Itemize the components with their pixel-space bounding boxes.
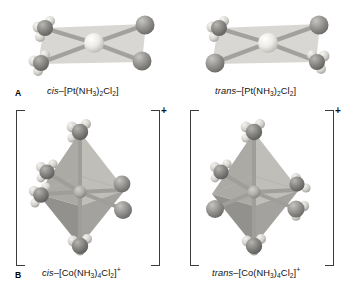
caption-sub-3: 2: [290, 272, 294, 279]
caption-trans-platin: trans–[Pt(NH3)2Cl2]: [215, 86, 296, 96]
panel-a: A cis–[Pt(NH3)2Cl2] trans–[Pt(NH3)2Cl2]: [0, 0, 353, 104]
caption-cl: Cl: [281, 86, 290, 96]
caption-formula-close: ]: [293, 86, 296, 96]
caption-formula-open: [Co(NH: [59, 268, 91, 278]
caption-prefix: cis: [42, 268, 54, 278]
panel-letter-b: B: [15, 270, 21, 280]
caption-sub-1: 3: [270, 90, 274, 97]
caption-formula-open: [Pt(NH: [64, 86, 93, 96]
caption-sub-3: 2: [112, 90, 116, 97]
structure-trans-platin: [188, 6, 348, 78]
panel-b: +: [0, 104, 353, 293]
caption-formula-open: [Pt(NH: [241, 86, 270, 96]
caption-formula-close: ]: [116, 86, 119, 96]
panel-letter-a: A: [15, 88, 21, 98]
structure-cis-cobalt: [22, 110, 150, 266]
caption-cl: Cl: [101, 268, 110, 278]
caption-charge: +: [117, 266, 121, 273]
charge-trans-cobalt: +: [335, 106, 341, 116]
caption-formula-open: [Co(NH: [238, 268, 270, 278]
caption-cis-cobalt: cis–[Co(NH3)4Cl2]+: [42, 268, 121, 278]
caption-sub-1: 3: [270, 272, 274, 279]
caption-sub-3: 2: [110, 272, 114, 279]
caption-sub-2: 4: [98, 272, 102, 279]
caption-sub-1: 3: [91, 272, 95, 279]
caption-cl: Cl: [281, 268, 290, 278]
caption-sub-2: 2: [99, 90, 103, 97]
caption-prefix: cis: [47, 86, 59, 96]
bracket-right-cis-cobalt: [149, 110, 160, 266]
structure-cis-platin: [14, 6, 174, 78]
caption-prefix: trans: [215, 86, 236, 96]
structure-trans-cobalt: [196, 110, 324, 266]
caption-charge: +: [296, 266, 300, 273]
caption-cis-platin: cis–[Pt(NH3)2Cl2]: [47, 86, 119, 96]
charge-cis-cobalt: +: [161, 106, 167, 116]
caption-prefix: trans: [212, 268, 233, 278]
caption-trans-cobalt: trans–[Co(NH3)4Cl2]+: [212, 268, 300, 278]
caption-sub-2: 4: [277, 272, 281, 279]
caption-cl: Cl: [103, 86, 112, 96]
bracket-right-trans-cobalt: [323, 110, 334, 266]
isomer-figure: A cis–[Pt(NH3)2Cl2] trans–[Pt(NH3)2Cl2] …: [0, 0, 353, 293]
caption-sub-3: 2: [290, 90, 294, 97]
caption-sub-2: 2: [277, 90, 281, 97]
caption-sub-1: 3: [92, 90, 96, 97]
